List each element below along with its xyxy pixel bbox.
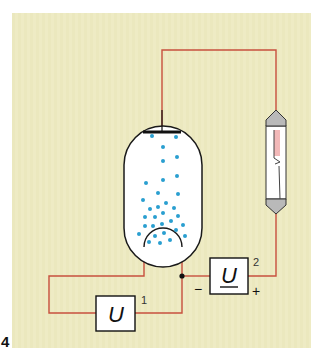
figure-number: 4: [1, 333, 9, 350]
circuit-svg: U 1 U 2 − +: [0, 0, 316, 360]
source1-symbol: U: [108, 302, 124, 327]
source1-index: 1: [141, 294, 147, 306]
junction-dot: [179, 273, 184, 278]
source2-index: 2: [253, 256, 259, 268]
source2-symbol: U: [221, 263, 237, 288]
circuit-diagram: U 1 U 2 − + 4: [0, 0, 316, 360]
glow-lamp: [266, 110, 286, 214]
source2-plus: +: [252, 283, 260, 299]
source2-minus: −: [194, 281, 202, 297]
